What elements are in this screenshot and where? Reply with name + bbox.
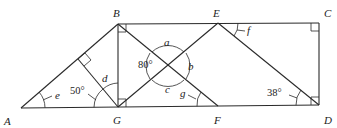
point-label-F: F (213, 114, 221, 126)
angle-pointer-f (237, 30, 245, 31)
angle-label-b: b (188, 60, 194, 72)
angle-label-g: g (180, 87, 186, 99)
angle-pointer-e (43, 96, 52, 100)
angle-pointer-50 (88, 94, 96, 100)
angle-label-d: d (102, 72, 108, 84)
angle-label-e: e (55, 89, 60, 101)
angle-value-50: 50° (70, 85, 85, 96)
segment-G-perp-AB (78, 59, 118, 107)
point-label-E: E (212, 7, 220, 19)
angle-value-80: 80° (138, 59, 153, 70)
point-label-B: B (113, 7, 120, 19)
angle-value-38: 38° (267, 87, 282, 98)
angle-pointer-38 (289, 95, 297, 98)
point-label-C: C (324, 7, 332, 19)
segment-AD (21, 105, 319, 108)
angle-label-f: f (247, 24, 252, 36)
right-angle-foot-icon (78, 53, 91, 66)
geometry-diagram: e 50° d a b c 80° g f 38° A B C D E F G (0, 0, 337, 128)
angle-arc-g-icon (197, 92, 201, 106)
point-label-D: D (323, 114, 332, 126)
angle-label-c: c (165, 83, 170, 95)
angle-pointer-g (188, 95, 196, 99)
right-angle-C-icon (311, 23, 319, 31)
point-label-G: G (113, 114, 121, 126)
angle-label-a: a (164, 36, 170, 48)
angle-arc-50-icon (94, 89, 103, 107)
angle-arc-f-icon (234, 23, 238, 36)
point-label-A: A (3, 115, 11, 127)
